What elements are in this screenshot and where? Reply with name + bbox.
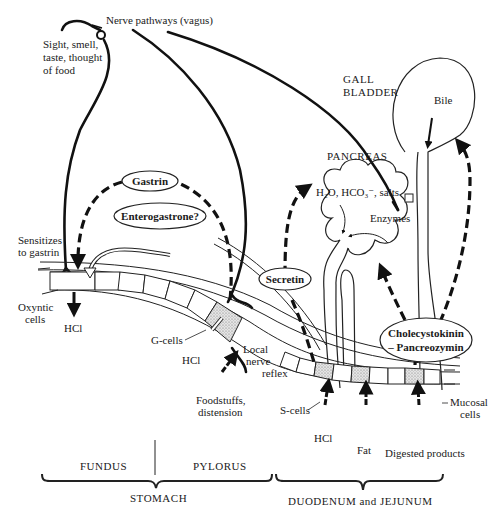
pancreas-label: PANCREAS: [327, 150, 387, 162]
enterogastrone-label: Enterogastrone?: [121, 210, 199, 222]
gastrin-label: Gastrin: [132, 175, 168, 187]
secretin-label: Secretin: [266, 273, 304, 285]
local-reflex-line2: nerve: [246, 355, 271, 367]
nerve-pathways-label: Nerve pathways (vagus): [106, 14, 213, 27]
hcl-stomach-label: HCl: [64, 322, 82, 334]
local-reflex-line3: reflex: [262, 367, 288, 379]
local-reflex-line1: Local: [243, 343, 268, 355]
cck-cells-block: [405, 368, 424, 384]
cck-oval: [380, 318, 472, 362]
digested-products-label: Digested products: [385, 447, 465, 459]
enzymes-label: Enzymes: [370, 212, 410, 224]
fat-sensing-cells-block: [351, 366, 370, 383]
sensitizes-label-line2: to gastrin: [18, 246, 60, 258]
duodenum-label: DUODENUM and JEJUNUM: [288, 495, 432, 507]
hcl-duodenum-label: HCl: [314, 432, 332, 444]
cck-label-line1: Cholecystokinin: [388, 327, 464, 339]
stomach-brace: [42, 474, 272, 488]
fundus-label: FUNDUS: [80, 460, 127, 472]
stomach-label: STOMACH: [130, 492, 187, 504]
cck-label-line2: – Pancreozymin: [387, 341, 463, 353]
foodstuffs-label-line2: distension: [198, 406, 243, 418]
mucosal-label-line1: Mucosal: [450, 396, 488, 408]
fat-label: Fat: [357, 444, 371, 456]
sight-label-line3: of food: [43, 64, 76, 76]
bile-label: Bile: [434, 94, 452, 106]
s-cells-label: S-cells: [280, 404, 310, 416]
gall-bladder-label-line2: BLADDER: [343, 86, 399, 98]
oxyntic-label-line1: Oxyntic: [18, 301, 54, 313]
g-cells-label: G-cells: [151, 334, 183, 346]
sight-label-line2: taste, thought: [43, 51, 102, 63]
oxyntic-label-line2: cells: [25, 313, 45, 325]
mucosal-label-line2: cells: [460, 408, 480, 420]
hcl-pylorus-label: HCl: [182, 354, 200, 366]
s-cells-block: [314, 362, 334, 380]
gall-bladder-label-line1: GALL: [343, 73, 374, 85]
digestive-secretion-diagram: Gastrin Enterogastrone? Secretin Cholecy…: [0, 0, 502, 519]
pancreas-secretion-label: H₂O, HCO₃⁻, salts: [316, 186, 399, 198]
pylorus-label: PYLORUS: [193, 460, 247, 472]
duodenum-brace: [276, 474, 443, 490]
sight-label-line1: Sight, smell,: [43, 38, 99, 50]
sensitizes-label-line1: Sensitizes: [18, 234, 62, 246]
foodstuffs-label-line1: Foodstuffs,: [196, 394, 246, 406]
